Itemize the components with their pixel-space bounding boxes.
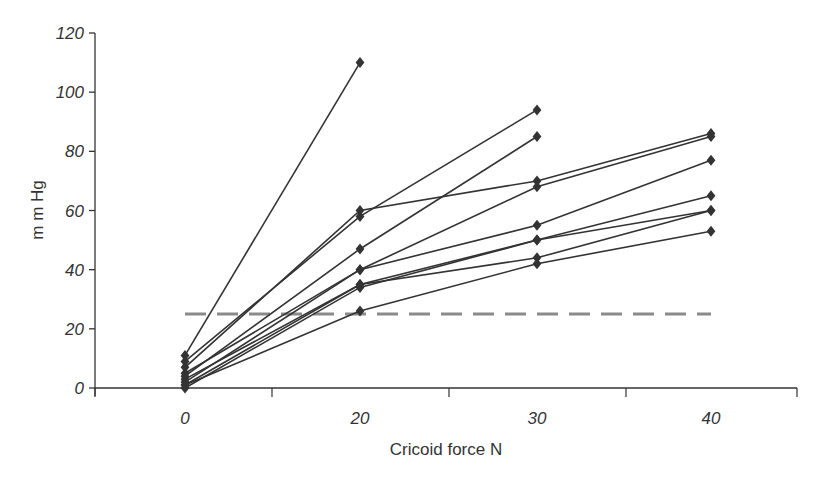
- y-tick-label: 80: [65, 142, 84, 161]
- x-tick-label: 30: [528, 409, 547, 428]
- y-tick-label: 20: [64, 320, 84, 339]
- diamond-marker: [533, 181, 542, 192]
- line-chart: 020406080100120 0203040 Cricoid force N …: [0, 0, 825, 481]
- data-series: [181, 57, 365, 361]
- x-tick-label: 0: [180, 409, 190, 428]
- y-tick-label: 40: [65, 261, 84, 280]
- diamond-marker: [707, 226, 716, 237]
- y-tick-label: 120: [56, 24, 85, 43]
- data-series: [181, 128, 716, 373]
- diamond-marker: [533, 220, 542, 231]
- diamond-marker: [356, 264, 365, 275]
- data-series: [181, 205, 716, 385]
- x-tick-label: 20: [350, 409, 370, 428]
- diamond-marker: [707, 155, 716, 166]
- y-axis: 020406080100120: [56, 24, 95, 398]
- y-tick-label: 60: [65, 202, 84, 221]
- y-tick-label: 100: [56, 83, 85, 102]
- x-axis-title: Cricoid force N: [390, 440, 502, 459]
- diamond-marker: [533, 235, 542, 246]
- series-group: [181, 57, 716, 393]
- y-axis-title: m m Hg: [28, 180, 47, 240]
- diamond-marker: [707, 190, 716, 201]
- x-axis: 0203040: [95, 388, 797, 428]
- diamond-marker: [533, 258, 542, 269]
- diamond-marker: [533, 131, 542, 142]
- diamond-marker: [356, 243, 365, 254]
- diamond-marker: [533, 104, 542, 115]
- data-series: [181, 190, 716, 390]
- data-series: [181, 226, 716, 391]
- data-series: [181, 104, 542, 366]
- x-tick-label: 40: [702, 409, 721, 428]
- data-series: [181, 131, 716, 388]
- y-tick-label: 0: [75, 379, 85, 398]
- diamond-marker: [707, 205, 716, 216]
